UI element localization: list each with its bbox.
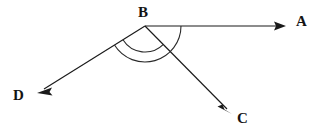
angle-arc-inner-path (123, 40, 163, 52)
ray-group-bd (37, 26, 145, 96)
angle-arc-outer-path (114, 26, 181, 62)
ray-group-bc (145, 26, 232, 114)
ray-bc-line (145, 26, 227, 109)
point-label-b: B (138, 5, 148, 20)
point-label-c: C (237, 111, 248, 126)
point-label-a: A (296, 14, 307, 29)
ray-group-ba (145, 22, 286, 31)
angle-diagram-canvas (0, 0, 326, 135)
angle-diagram: A B C D (0, 0, 326, 135)
point-label-d: D (13, 88, 24, 103)
ray-bd-line (44, 26, 145, 89)
